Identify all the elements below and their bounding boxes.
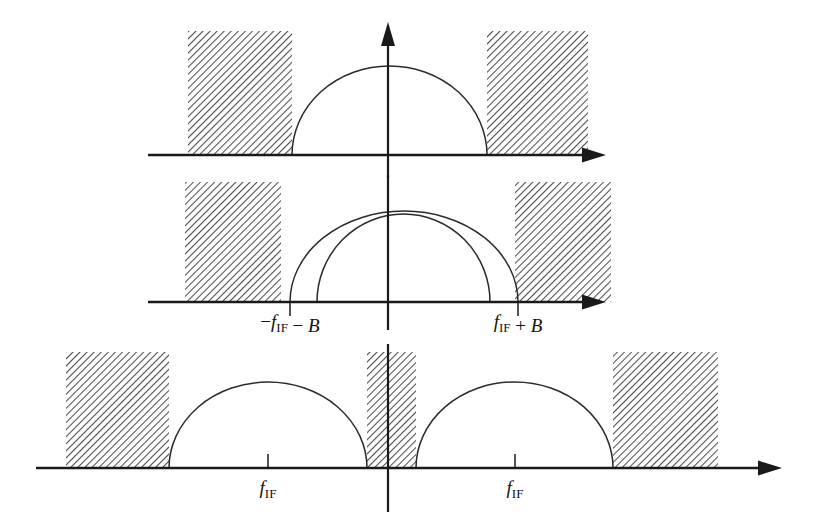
far-right-interference-band (613, 352, 718, 468)
far-left-interference-band (66, 352, 169, 468)
outer-signal-lobe (290, 211, 518, 302)
label-pos-fif-plus-b: fIF + B (494, 311, 543, 336)
spectrum-figure: −fIF − BfIF + BfIFfIF (0, 0, 815, 526)
top-panel (148, 22, 606, 178)
bottom-panel-horizontal-axis-arrow-icon (758, 461, 782, 476)
bottom-panel: fIFfIF (36, 344, 782, 512)
label-neg-fif-minus-b: −fIF − B (260, 311, 320, 336)
top-panel-horizontal-axis-arrow-icon (582, 148, 606, 163)
middle-panel: −fIF − BfIF + B (148, 175, 611, 336)
right-interference-band (515, 182, 611, 302)
top-panel-vertical-axis-arrow-icon (381, 22, 395, 46)
center-interference-band (367, 352, 416, 468)
right-interference-band (487, 31, 588, 155)
inner-signal-lobe (317, 214, 490, 302)
figure-root: −fIF − BfIF + BfIFfIF (0, 0, 815, 526)
label-neg-fif: fIF (260, 477, 277, 501)
left-interference-band (188, 31, 292, 155)
left-interference-band (185, 182, 281, 302)
panels-layer: −fIF − BfIF + BfIFfIF (36, 22, 782, 512)
label-pos-fif: fIF (507, 477, 524, 501)
signal-lobe (292, 66, 487, 155)
